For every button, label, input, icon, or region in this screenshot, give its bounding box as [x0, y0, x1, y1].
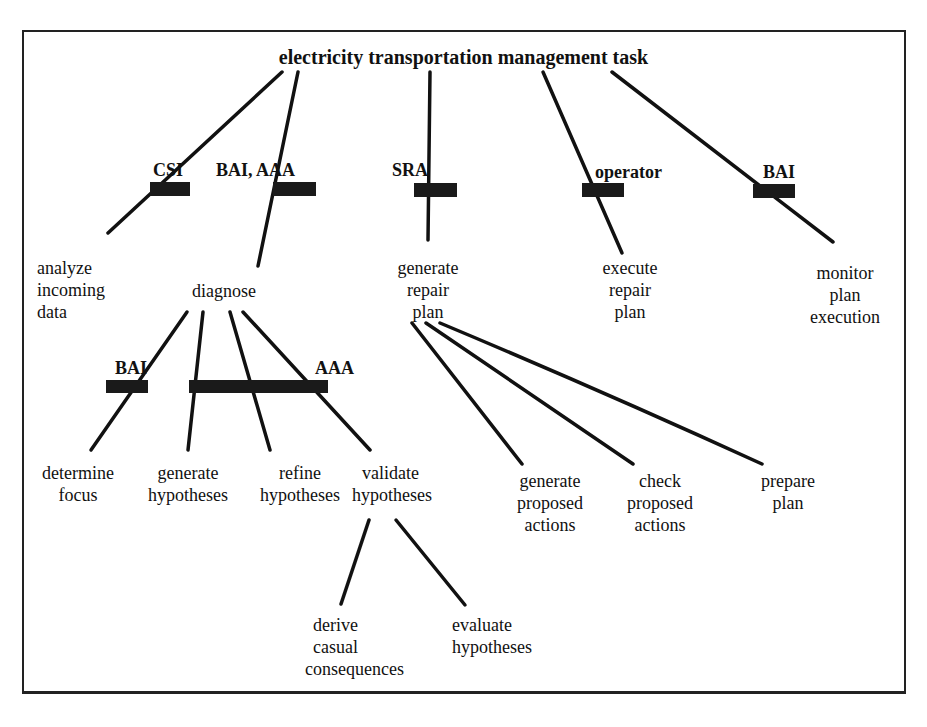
agent-label-csi: CSI — [153, 160, 183, 181]
node-validate-hypotheses: validate hypotheses — [352, 462, 460, 506]
edge-repair-generate-actions — [412, 323, 522, 464]
node-check-proposed-actions: check proposed actions — [620, 470, 700, 536]
edge-validate-evaluate — [396, 520, 465, 605]
node-execute-repair-plan: execute repair plan — [585, 257, 675, 323]
agent-label-operator: operator — [595, 162, 662, 183]
agent-bar-csi — [150, 182, 190, 196]
node-diagnose: diagnose — [174, 280, 274, 302]
agent-label-bai-focus: BAI — [115, 358, 147, 379]
agent-bar-bai-aaa — [273, 182, 316, 196]
edge-validate-derive — [341, 520, 369, 604]
task-decomposition-diagram: electricity transportation management ta… — [0, 0, 927, 727]
agent-bar-bai-monitor — [753, 184, 795, 198]
agent-label-bai-monitor: BAI — [763, 162, 795, 183]
agent-bar-aaa-hypotheses — [189, 380, 328, 393]
node-generate-hypotheses: generate hypotheses — [134, 462, 242, 506]
node-determine-focus: determine focus — [30, 462, 126, 506]
node-analyze-incoming-data: analyze incoming data — [37, 257, 105, 323]
agent-label-sra: SRA — [392, 160, 428, 181]
edge-root-analyze — [108, 72, 282, 233]
node-evaluate-hypotheses: evaluate hypotheses — [452, 614, 532, 658]
agent-bar-bai-focus — [106, 380, 148, 393]
agent-bar-sra — [414, 183, 457, 197]
edge-root-repair — [428, 72, 430, 240]
node-prepare-plan: prepare plan — [748, 470, 828, 514]
node-refine-hypotheses: refine hypotheses — [246, 462, 354, 506]
agent-label-bai-aaa: BAI, AAA — [216, 160, 295, 181]
node-derive-casual-consequences: derive casual consequences — [305, 614, 404, 680]
root-task-title: electricity transportation management ta… — [0, 46, 927, 69]
node-monitor-plan-execution: monitor plan execution — [800, 262, 890, 328]
node-generate-repair-plan: generate repair plan — [378, 257, 478, 323]
agent-bar-operator — [582, 183, 624, 197]
node-generate-proposed-actions: generate proposed actions — [510, 470, 590, 536]
agent-label-aaa-hypotheses: AAA — [315, 358, 354, 379]
edge-root-monitor — [612, 72, 833, 242]
